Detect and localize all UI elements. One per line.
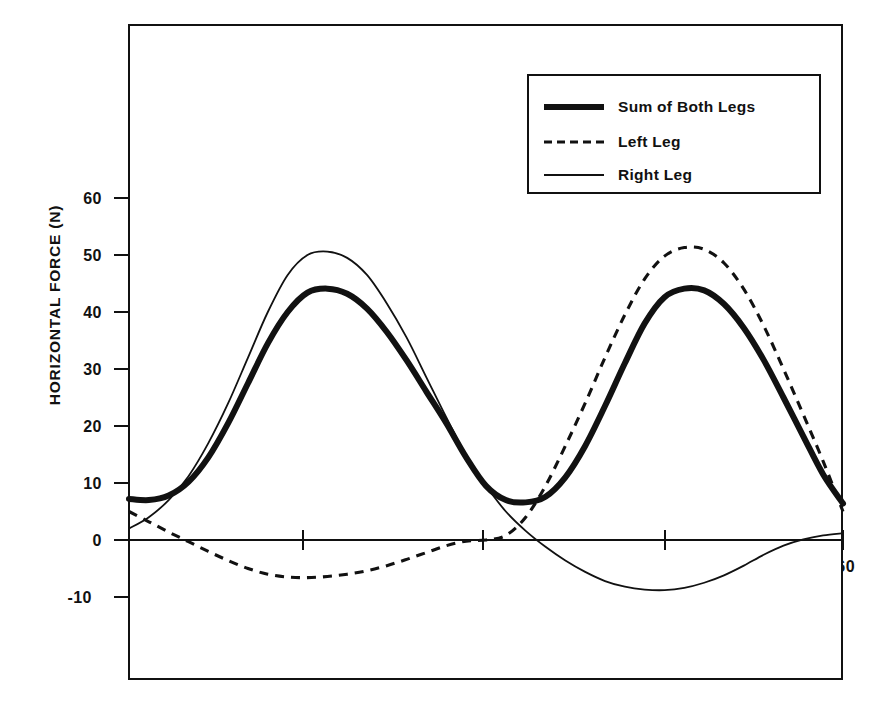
legend-entry-sum: Sum of Both Legs: [543, 94, 755, 120]
y-tick-marks: [114, 198, 129, 597]
legend-sample-thick-solid-icon: [543, 100, 605, 114]
legend: Sum of Both Legs Left Leg Right Leg: [527, 74, 821, 194]
legend-label-right-leg: Right Leg: [618, 166, 692, 184]
series-sum-of-both-legs: [129, 288, 843, 504]
legend-label-left-leg: Left Leg: [618, 133, 681, 151]
legend-entry-left-leg: Left Leg: [543, 129, 681, 155]
legend-label-sum: Sum of Both Legs: [618, 98, 755, 116]
chart-figure: HORIZONTAL FORCE (N) 60 50 40 30 20 10 0…: [0, 0, 891, 707]
legend-entry-right-leg: Right Leg: [543, 162, 692, 188]
legend-sample-thin-solid-icon: [543, 168, 605, 182]
legend-sample-dashed-icon: [543, 135, 605, 149]
